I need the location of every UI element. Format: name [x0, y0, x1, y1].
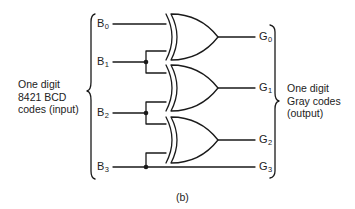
output-group-line-1: One digit [287, 82, 341, 95]
xor-gate-1 [166, 14, 218, 60]
output-group-label: One digit Gray codes (output) [287, 82, 341, 120]
wire-b3-branch [146, 153, 166, 167]
wire-b1-branch [146, 51, 166, 73]
input-label-b0: B0 [97, 17, 109, 33]
input-group-line-2: 8421 BCD [18, 91, 79, 104]
output-label-g1: G1 [259, 81, 272, 97]
output-label-g2: G2 [259, 133, 272, 149]
input-label-b2: B2 [97, 106, 109, 122]
figure-caption: (b) [176, 191, 189, 203]
xor-gate-2 [166, 65, 218, 111]
input-brace [87, 14, 95, 179]
junction-b1 [144, 60, 149, 65]
junction-b3 [144, 165, 149, 170]
junction-b2 [144, 111, 149, 116]
output-label-g0: G0 [259, 30, 272, 46]
input-label-b3: B3 [97, 160, 109, 176]
input-label-b1: B1 [97, 55, 109, 71]
input-group-line-3: codes (input) [18, 103, 79, 116]
input-group-line-1: One digit [18, 78, 79, 91]
output-brace [270, 25, 279, 178]
output-label-g3: G3 [259, 160, 272, 176]
output-group-line-2: Gray codes [287, 95, 341, 108]
output-group-line-3: (output) [287, 107, 341, 120]
wire-b2-branch [146, 102, 166, 124]
input-group-label: One digit 8421 BCD codes (input) [18, 78, 79, 116]
xor-gate-3 [166, 117, 218, 163]
